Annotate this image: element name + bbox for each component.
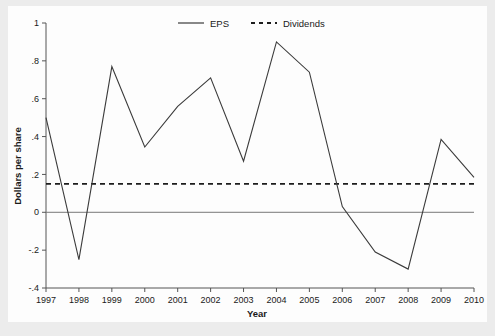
plot-card: 1.8.6.4.20-.2-.4 19971998199920002001200… <box>8 6 487 322</box>
chart-legend: EPS Dividends <box>178 18 325 29</box>
y-tick-label: 0 <box>34 207 39 217</box>
x-tick-label: 1998 <box>69 295 89 305</box>
y-tick-label: -.2 <box>28 245 39 255</box>
line-chart: 1.8.6.4.20-.2-.4 19971998199920002001200… <box>8 6 487 322</box>
x-tick-label: 2007 <box>365 295 385 305</box>
y-axis-ticks <box>42 23 46 288</box>
legend-label-eps: EPS <box>210 18 229 29</box>
y-tick-label: .8 <box>31 56 39 66</box>
x-tick-label: 2006 <box>332 295 352 305</box>
y-tick-label: .6 <box>31 94 39 104</box>
x-tick-label: 2001 <box>168 295 188 305</box>
y-axis-title: Dollars per share <box>12 127 23 205</box>
y-tick-label: 1 <box>34 18 39 28</box>
series-line-eps <box>46 42 474 269</box>
x-axis-title: Year <box>247 308 267 319</box>
x-axis-ticks <box>46 288 474 292</box>
x-tick-label: 2002 <box>201 295 221 305</box>
y-tick-label: -.4 <box>28 283 39 293</box>
chart-page: 1.8.6.4.20-.2-.4 19971998199920002001200… <box>0 0 495 336</box>
x-tick-label: 2005 <box>299 295 319 305</box>
y-tick-label: .2 <box>31 170 39 180</box>
x-tick-label: 1997 <box>36 295 56 305</box>
x-tick-label: 1999 <box>102 295 122 305</box>
y-tick-label: .4 <box>31 132 39 142</box>
x-tick-label: 2004 <box>266 295 286 305</box>
x-tick-label: 2009 <box>431 295 451 305</box>
x-tick-label: 2008 <box>398 295 418 305</box>
x-tick-label: 2003 <box>234 295 254 305</box>
y-axis-tick-labels: 1.8.6.4.20-.2-.4 <box>28 18 39 293</box>
x-tick-label: 2010 <box>464 295 484 305</box>
legend-label-dividends: Dividends <box>283 18 325 29</box>
x-axis-tick-labels: 1997199819992000200120022003200420052006… <box>36 295 484 305</box>
x-tick-label: 2000 <box>135 295 155 305</box>
